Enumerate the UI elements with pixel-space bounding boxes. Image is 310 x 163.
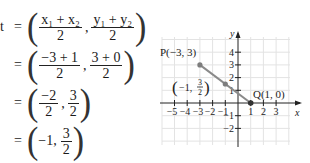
y-tick-label: 4 — [229, 47, 234, 58]
x-tick-label: −4 — [180, 106, 191, 117]
right-paren: ) — [123, 46, 134, 83]
left-paren: ( — [27, 84, 38, 121]
numerator: 3 — [61, 126, 72, 141]
x-tick-label: 2 — [261, 106, 266, 117]
denominator: 2 — [102, 66, 109, 81]
point-q-label: Q(1, 0) — [253, 88, 285, 101]
y-tick-label: 3 — [229, 59, 234, 70]
x-axis-label: x — [294, 107, 300, 118]
derivation-step-1: t = ( x₁ + x₂ 2 , y₁ + y₂ 2 ) — [0, 8, 146, 46]
y-fraction: 3 2 — [68, 88, 79, 119]
midpoint-derivation: t = ( x₁ + x₂ 2 , y₁ + y₂ 2 ) = ( −3 + 1… — [0, 0, 160, 163]
x-tick-label: −3 — [193, 106, 204, 117]
x-tick-label: 1 — [248, 106, 253, 117]
x-axis-arrow — [295, 101, 302, 106]
numerator: −3 + 1 — [39, 50, 80, 65]
derivation-step-2: = ( −3 + 1 2 , 3 + 0 2 ) — [0, 46, 135, 84]
equals-sign: = — [14, 57, 22, 73]
denominator: 2 — [57, 28, 64, 43]
derivation-step-4: = ( −1, 3 2 ) — [0, 122, 84, 160]
y-tick-label: 2 — [229, 72, 234, 83]
x-value: −1, — [38, 133, 56, 149]
x-tick-label: 3 — [274, 106, 279, 117]
x-fraction: x₁ + x₂ 2 — [39, 12, 82, 43]
x-tick-label: −2 — [205, 106, 216, 117]
denominator: 2 — [56, 66, 63, 81]
point-q — [248, 100, 254, 106]
right-paren: ) — [80, 84, 91, 121]
right-paren: ) — [135, 8, 146, 45]
point-p-label: P(−3, 3) — [160, 46, 196, 59]
left-paren: ( — [27, 122, 38, 159]
left-paren: ( — [27, 46, 38, 83]
y-fraction: 3 2 — [61, 126, 72, 157]
point-p — [197, 62, 202, 67]
lead-symbol: t — [0, 19, 12, 35]
denominator: 2 — [45, 104, 52, 119]
denominator: 2 — [70, 104, 77, 119]
numerator: 3 — [68, 88, 79, 103]
midpoint-label-x: −1, — [179, 82, 192, 93]
equals-sign: = — [14, 19, 22, 35]
right-paren: ) — [73, 122, 84, 159]
midpoint-label-num: 3 — [198, 78, 202, 87]
comma: , — [83, 58, 87, 84]
numerator: −2 — [39, 88, 58, 103]
equals-sign: = — [14, 95, 22, 111]
numerator: 3 + 0 — [90, 50, 123, 65]
y-tick-label: −1 — [223, 110, 234, 121]
left-paren: ( — [27, 8, 38, 45]
x-tick-label: −5 — [167, 106, 178, 117]
y-axis-arrow — [236, 31, 241, 38]
derivation-step-3: = ( −2 2 , 3 2 ) — [0, 84, 91, 122]
x-fraction: −2 2 — [39, 88, 58, 119]
point-midpoint — [223, 81, 228, 86]
x-fraction: −3 + 1 2 — [39, 50, 80, 81]
y-fraction: y₁ + y₂ 2 — [91, 12, 134, 43]
comma: , — [85, 20, 89, 46]
comma: , — [61, 96, 65, 122]
y-axis-label: y — [229, 28, 235, 39]
numerator: y₁ + y₂ — [91, 12, 134, 27]
denominator: 2 — [109, 28, 116, 43]
graph-svg: −5 −4 −3 −2 −1 1 2 3 x y 4 3 2 1 −1 −2 P… — [150, 25, 310, 155]
coordinate-graph: −5 −4 −3 −2 −1 1 2 3 x y 4 3 2 1 −1 −2 P… — [150, 25, 310, 155]
equals-sign: = — [14, 133, 22, 149]
y-tick-label: −2 — [223, 123, 234, 134]
midpoint-label: ( −1, 3 2 ) — [172, 78, 210, 97]
svg-text:(: ( — [172, 78, 178, 97]
svg-text:): ) — [204, 78, 210, 97]
midpoint-label-den: 2 — [198, 88, 202, 97]
denominator: 2 — [63, 142, 70, 157]
numerator: x₁ + x₂ — [39, 12, 82, 27]
y-fraction: 3 + 0 2 — [90, 50, 123, 81]
